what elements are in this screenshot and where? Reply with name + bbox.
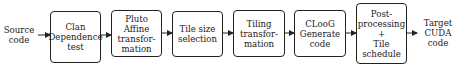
stage-text: transfor- [240, 29, 278, 39]
stage-text: Clan [66, 22, 86, 32]
stage-text: test [67, 42, 83, 52]
stage-text: Dependence [48, 32, 102, 42]
stage-text: selection [178, 34, 217, 44]
stage-tiling: Tiling transfor- mation [233, 10, 285, 57]
stage-text: code [310, 39, 331, 49]
stage-text: Tiling [246, 19, 271, 29]
stage-text: Tile [373, 39, 389, 49]
stage-text: Generate [300, 29, 340, 39]
stage-text: schedule [362, 49, 401, 59]
stage-tile-size: Tile size selection [172, 11, 223, 57]
target-line: Target [424, 18, 452, 28]
source-line: Source [4, 25, 35, 35]
stage-post-processing: Post- processing + Tile schedule [356, 3, 407, 64]
stage-text: Tile size [180, 24, 216, 34]
source-line: code [9, 35, 30, 45]
stage-text: Pluto [125, 14, 148, 24]
stage-text: mation [121, 44, 151, 54]
stage-text: CLooG [305, 19, 335, 29]
stage-text: mation [244, 39, 274, 49]
target-cuda-label: Target CUDA code [418, 17, 458, 49]
stage-text: + [378, 29, 385, 39]
stage-clan: Clan Dependence test [50, 11, 101, 63]
stage-pluto: Pluto Affine transfor- mation [111, 10, 162, 57]
source-code-label: Source code [0, 22, 38, 48]
target-line: CUDA [425, 28, 452, 38]
stage-text: transfor- [118, 34, 156, 44]
stage-text: processing [358, 19, 405, 29]
stage-cloog: CLooG Generate code [294, 10, 346, 57]
stage-text: Affine [124, 24, 150, 34]
target-line: code [428, 38, 449, 48]
stage-text: Post- [371, 9, 392, 19]
